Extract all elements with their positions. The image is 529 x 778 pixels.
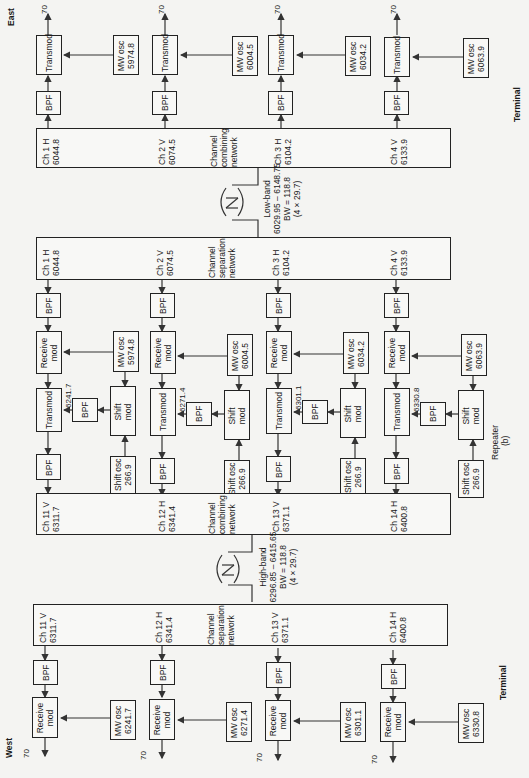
channel-label: Ch 14 H6400.8 [388,612,408,643]
network-label: Channelcombiningnetwork [209,128,239,167]
mw-osc-block: MW osc6330.8 [458,703,484,743]
bpf-mid-block: BPF [420,402,446,426]
transmod-block: Transmod [152,35,178,75]
receive-mod-block: Receivemod [32,697,58,738]
if-70-label: 70 [139,751,149,760]
transmod-block: Transmod [36,388,62,432]
shift-osc-block: Shift osc266.9 [458,460,484,498]
mw-osc-block: MW osc6004.5 [232,36,258,76]
channel-label: Ch 4 V6133.9 [389,250,409,276]
west-channel-separation-network: Ch 11 V6311.7 Ch 12 H6341.4 Channelsepar… [33,604,448,646]
bpf-block: BPF [152,91,177,115]
repeater-label: Repeater [490,425,500,460]
shift-mod-block: Shiftmod [340,388,366,438]
connection-lines [0,0,529,778]
bpf-out-block: BPF [150,458,175,484]
mw-osc-block: MW osc6034.2 [345,36,371,76]
if-70-label: 70 [157,5,167,14]
if-70-label: 70 [273,5,283,14]
channel-label: Ch 13 V6371.1 [270,612,290,643]
network-label: Channelseparationnetwork [207,238,237,278]
transmod-block: Transmod [266,388,292,434]
receive-mod-block: Receivemod [384,331,410,374]
channel-label: Ch 14 H6400.8 [389,501,409,532]
bpf-out-block: BPF [36,454,61,480]
west-label: West [4,738,14,758]
high-band-label: High-band6296.85 – 6415.65BW = 118.8(4 ×… [258,530,298,604]
bpf-block: BPF [36,91,61,115]
channel-label: Ch 13 V6371.1 [271,501,291,532]
network-label: Channelcombiningnetwork [207,495,237,534]
channel-label: Ch 12 H6341.4 [154,612,174,643]
channel-label: Ch 1 H6044.8 [41,139,61,165]
repeater-channel-combining-network: Ch 11 V6311.7 Ch 12 H6341.4 Channelcombi… [36,493,451,535]
bpf-block: BPF [381,664,406,689]
channel-label: Ch 11 V6311.7 [41,502,61,532]
mw-osc-block: MW osc5974.8 [113,331,139,372]
receive-mod-block: Receivemod [266,331,292,374]
mw-osc-block: MW osc6271.4 [226,702,252,742]
mw-osc-block: MW osc6004.5 [227,334,253,376]
receive-mod-block: Receivemod [380,702,406,742]
channel-label: Ch 3 H6104.2 [273,139,293,165]
mw-osc-block: MW osc5974.8 [113,35,139,75]
receive-mod-block: Receivemod [36,331,62,374]
bpf-block: BPF [150,660,175,685]
repeater-channel-separation-network: Ch 1 H6044.8 Ch 2 V6074.5 Channelseparat… [36,237,451,280]
bpf-mid-block: BPF [302,400,328,424]
network-label: Channelseparationnetwork [206,605,236,645]
bpf-in-block: BPF [36,293,61,318]
shift-mod-block: Shiftmod [458,390,484,440]
if-70-label: 70 [389,5,399,14]
channel-label: Ch 11 V6311.7 [38,613,58,643]
receive-mod-block: Receivemod [150,331,176,374]
east-label: East [6,8,16,26]
bpf-in-block: BPF [384,293,409,318]
if-70-label: 70 [22,749,32,758]
bpf-block: BPF [33,660,58,685]
channel-label: Ch 4 V6133.9 [389,139,409,165]
figure-label: (b) [500,436,510,446]
bpf-mid-block: BPF [186,402,212,426]
mw-osc-block: MW osc6034.2 [343,332,369,374]
bpf-out-block: BPF [384,458,409,484]
low-band-label: Low-band6029.95 – 6148.75BW = 118.8(4 × … [262,164,302,234]
shift-mod-block: Shiftmod [110,386,136,436]
east-channel-combining-network: Ch 1 H6044.8 Ch 2 V6074.5 Channelcombini… [36,128,451,168]
terminal-label-west: Terminal [498,665,508,700]
channel-label: Ch 12 H6341.4 [157,501,177,532]
if-70-label: 70 [255,753,265,762]
channel-label: Ch 2 V6074.5 [155,250,175,276]
bpf-in-block: BPF [150,293,175,318]
mw-osc-block: MW osc6063.9 [461,334,487,376]
receive-mod-block: Receivemod [265,700,291,741]
bpf-in-block: BPF [266,293,291,318]
mw-osc-block: MW osc6301.1 [340,702,366,742]
channel-label: Ch 1 H6044.8 [41,250,61,276]
mw-osc-block: MW osc6241.7 [110,700,136,740]
if-70-label: 70 [370,755,380,764]
if-70-label: 70 [40,5,50,14]
terminal-label-east: Terminal [512,87,522,122]
channel-label: Ch 2 V6074.5 [157,139,177,165]
transmod-block: Transmod [268,35,294,75]
bpf-block: BPF [384,91,409,115]
bpf-block: BPF [268,91,293,115]
bpf-block: BPF [266,662,291,688]
shift-osc-block: Shift osc266.9 [340,458,366,496]
transmod-block: Transmod [150,388,176,436]
shift-osc-block: Shift osc266.9 [110,456,136,494]
bpf-out-block: BPF [266,456,291,482]
transmod-block: Transmod [36,35,62,75]
transmod-block: Transmod [384,388,410,436]
shift-mod-block: Shiftmod [224,390,250,440]
receive-mod-block: Receivemod [149,699,175,740]
transmod-block: Transmod [384,37,410,77]
mw-osc-block: MW osc6063.9 [463,38,489,78]
bpf-mid-block: BPF [72,398,98,422]
channel-label: Ch 3 H6104.2 [271,250,291,276]
